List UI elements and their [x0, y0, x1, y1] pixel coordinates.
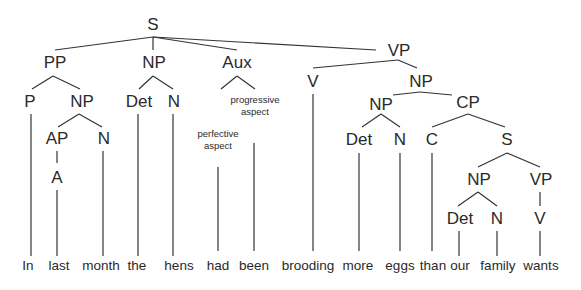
- word: than: [420, 259, 446, 273]
- node-det-subject: Det: [126, 93, 152, 110]
- tree-branches: [0, 0, 581, 290]
- node-v: V: [307, 73, 318, 90]
- note-line: progressive: [230, 94, 279, 106]
- node-np-inner: NP: [369, 96, 393, 113]
- node-det-embedded: Det: [447, 210, 473, 227]
- perfective-aspect-note: perfective aspect: [197, 128, 238, 152]
- node-aux: Aux: [222, 54, 251, 71]
- word: brooding: [282, 259, 335, 273]
- word: wants: [523, 259, 558, 273]
- word: more: [343, 259, 374, 273]
- node-ap: AP: [46, 130, 69, 147]
- node-p: P: [24, 93, 35, 110]
- word: last: [48, 259, 69, 273]
- node-n-subject: N: [168, 93, 180, 110]
- node-np-pp: NP: [70, 93, 94, 110]
- node-a: A: [51, 169, 62, 186]
- node-np-subject: NP: [142, 54, 166, 71]
- node-pp: PP: [44, 54, 67, 71]
- progressive-aspect-note: progressive aspect: [230, 94, 279, 118]
- word: had: [207, 259, 230, 273]
- word: In: [22, 259, 33, 273]
- node-s-embedded: S: [501, 131, 512, 148]
- word: eggs: [385, 259, 414, 273]
- node-v-embedded: V: [534, 210, 545, 227]
- node-cp: CP: [456, 94, 480, 111]
- note-line: perfective: [197, 128, 238, 140]
- word: hens: [164, 259, 193, 273]
- word: month: [82, 259, 120, 273]
- node-vp: VP: [388, 42, 411, 59]
- word: family: [480, 259, 515, 273]
- node-n-pp: N: [98, 130, 110, 147]
- node-np-object: NP: [409, 73, 433, 90]
- node-s-root: S: [147, 16, 158, 33]
- node-np-embedded: NP: [467, 171, 491, 188]
- word: been: [239, 259, 269, 273]
- node-det-object: Det: [346, 131, 372, 148]
- node-n-object: N: [394, 131, 406, 148]
- note-line: aspect: [197, 140, 238, 152]
- node-vp-embedded: VP: [530, 171, 553, 188]
- word: our: [450, 259, 470, 273]
- word: the: [128, 259, 147, 273]
- note-line: aspect: [230, 106, 279, 118]
- node-n-embedded: N: [491, 210, 503, 227]
- node-c: C: [426, 131, 438, 148]
